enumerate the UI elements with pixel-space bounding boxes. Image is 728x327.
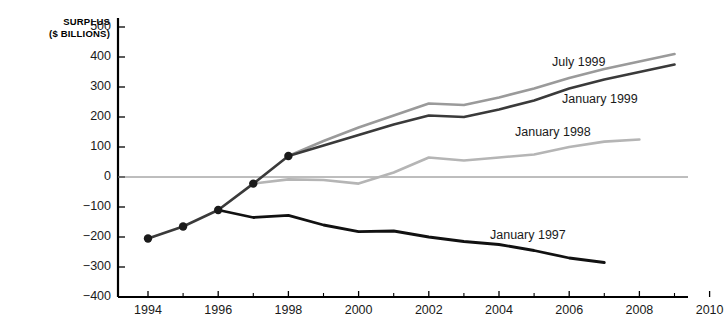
x-tick-label: 1996 <box>188 303 248 317</box>
y-tick-label: 500 <box>63 19 111 33</box>
data-point-marker <box>144 234 152 242</box>
x-tick-label: 2002 <box>399 303 459 317</box>
series-label-july-1999: July 1999 <box>552 55 606 69</box>
x-tick-label: 2008 <box>609 303 669 317</box>
y-tick-label: 100 <box>63 139 111 153</box>
series-label-january-1999: January 1999 <box>562 92 638 106</box>
chart-series-group <box>144 54 675 263</box>
data-point-marker <box>284 152 292 160</box>
y-tick-label: −200 <box>63 229 111 243</box>
series-label-january-1997: January 1997 <box>490 228 566 242</box>
y-tick-label: 300 <box>63 79 111 93</box>
y-tick-label: 0 <box>63 169 111 183</box>
x-tick-label: 2004 <box>469 303 529 317</box>
y-tick-label: −400 <box>63 289 111 303</box>
y-tick-label: −100 <box>63 199 111 213</box>
data-point-marker <box>179 222 187 230</box>
y-tick-label: −300 <box>63 259 111 273</box>
series-line <box>148 156 288 239</box>
y-tick-label: 200 <box>63 109 111 123</box>
series-line <box>288 65 674 157</box>
chart-axes <box>118 18 710 297</box>
data-point-marker <box>249 179 257 187</box>
x-tick-label: 2010 <box>680 303 728 317</box>
x-tick-label: 1994 <box>118 303 178 317</box>
y-tick-label: 400 <box>63 49 111 63</box>
data-point-marker <box>214 206 222 214</box>
x-tick-label: 2000 <box>329 303 389 317</box>
series-label-january-1998: January 1998 <box>515 125 591 139</box>
x-tick-label: 2006 <box>539 303 599 317</box>
x-tick-label: 1998 <box>258 303 318 317</box>
